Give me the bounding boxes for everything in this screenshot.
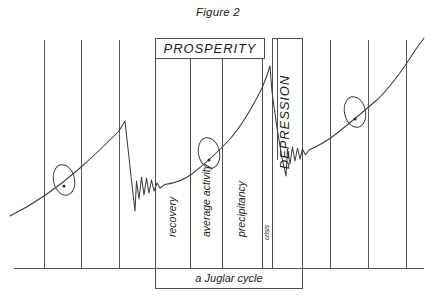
trend-marker-ellipse (342, 95, 369, 130)
gridlines (45, 40, 407, 268)
business-cycle-chart: PROSPERITY DEPRESSION recovery average a… (0, 0, 436, 299)
trend-marker-dot (208, 159, 211, 162)
trend-marker-1 (51, 163, 78, 198)
phase-label-recovery: recovery (166, 196, 178, 237)
depression-label: DEPRESSION (277, 75, 292, 169)
trend-marker-3 (342, 95, 369, 130)
phase-label-crisis: crisis (263, 224, 270, 240)
phase-label-average-activity: average activity (200, 163, 212, 237)
activity-curve-group (10, 38, 424, 216)
trend-marker-ellipse (51, 163, 78, 198)
figure-container: Figure 2 (0, 0, 436, 299)
activity-curve (10, 38, 424, 216)
trend-marker-dot (354, 118, 357, 121)
trend-marker-dot (63, 185, 66, 188)
phase-label-precipitancy: precipitancy (235, 180, 247, 238)
juglar-cycle-caption: a Juglar cycle (195, 272, 262, 284)
prosperity-label: PROSPERITY (164, 41, 257, 56)
